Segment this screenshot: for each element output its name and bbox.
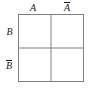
column-label-a-text: A [30, 2, 36, 13]
row-label-b-text: B [6, 26, 12, 37]
column-label-a-not: A [61, 2, 73, 13]
column-label-a: A [27, 3, 39, 13]
horizontal-divider-line [19, 48, 83, 49]
kmap-cell-anot-bnot[interactable] [51, 48, 83, 81]
column-label-a-not-text: A [64, 2, 70, 13]
row-label-b-not: B [3, 60, 15, 71]
kmap-cell-a-bnot[interactable] [19, 48, 51, 81]
kmap-cell-a-b[interactable] [19, 15, 51, 48]
karnaugh-map-diagram: A A B B [0, 0, 96, 90]
row-label-b-not-text: B [6, 60, 12, 71]
kmap-grid [18, 14, 84, 82]
kmap-cell-anot-b[interactable] [51, 15, 83, 48]
row-label-b: B [4, 27, 15, 37]
